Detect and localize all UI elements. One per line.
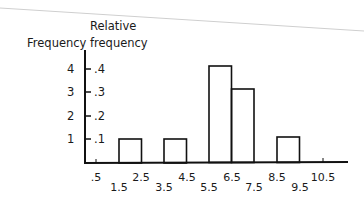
y-tick-label-freq: 2 bbox=[67, 110, 74, 122]
bar-8.5-9.5 bbox=[277, 137, 300, 163]
x-tick-label: 2.5 bbox=[132, 172, 150, 184]
x-tick-label: 8.5 bbox=[268, 172, 286, 184]
x-tick-label: 9.5 bbox=[291, 182, 309, 194]
x-tick-label: 6.5 bbox=[223, 172, 241, 184]
y-tick-label-freq: 3 bbox=[67, 86, 74, 98]
y-tick-label-rel: .2 bbox=[94, 110, 105, 122]
page-edge-line bbox=[0, 8, 364, 31]
x-tick-label: 10.5 bbox=[311, 172, 336, 184]
histogram-bars bbox=[119, 66, 300, 163]
bar-3.5-4.5 bbox=[164, 139, 187, 163]
y-tick-label-freq: 1 bbox=[67, 133, 74, 145]
bar-5.5-6.5 bbox=[209, 66, 232, 163]
y-tick-label-freq: 4 bbox=[67, 63, 74, 75]
relative-frequency-title-line2: frequency bbox=[90, 37, 148, 49]
x-tick-label: 4.5 bbox=[178, 172, 196, 184]
x-tick-label: 3.5 bbox=[155, 182, 173, 194]
y-tick-label-rel: .4 bbox=[94, 63, 105, 75]
relative-frequency-title-line1: Relative bbox=[90, 20, 136, 32]
x-tick-label: 7.5 bbox=[245, 182, 263, 194]
histogram-chart: Relative Frequency frequency 1 2 3 4 .1 … bbox=[0, 0, 364, 205]
frequency-axis-title: Frequency bbox=[27, 37, 86, 49]
x-tick-label: 5.5 bbox=[200, 182, 218, 194]
bar-1.5-2.5 bbox=[119, 139, 142, 163]
x-tick-label: 1.5 bbox=[110, 182, 128, 194]
x-tick-label: .5 bbox=[91, 172, 102, 184]
bar-6.5-7.5 bbox=[232, 89, 255, 163]
y-tick-label-rel: .1 bbox=[94, 133, 105, 145]
y-tick-label-rel: .3 bbox=[94, 86, 105, 98]
